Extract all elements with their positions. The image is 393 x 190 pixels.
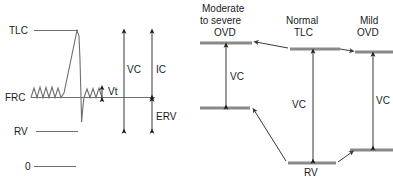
label-vc-normal: VC (292, 99, 306, 110)
label-rv: RV (14, 126, 28, 137)
label-zero: 0 (25, 161, 31, 172)
title-normal-line1: Normal (286, 15, 318, 26)
title-moderate-line2: to severe (200, 15, 242, 26)
label-rv-normal: RV (304, 167, 318, 178)
label-tlc: TLC (9, 25, 28, 36)
title-normal-line2: TLC (294, 27, 313, 38)
label-vc: VC (127, 64, 141, 75)
label-vc-moderate: VC (230, 71, 244, 82)
title-moderate-line3: OVD (214, 27, 236, 38)
label-frc: FRC (5, 92, 26, 103)
label-erv: ERV (156, 111, 177, 122)
label-ic: IC (156, 64, 166, 75)
title-mild-line2: OVD (357, 27, 379, 38)
figure-container: TLC FRC RV 0 Vt VC IC ERV Moderate to se… (0, 0, 393, 190)
title-moderate-line1: Moderate (202, 3, 245, 14)
diagram-svg: TLC FRC RV 0 Vt VC IC ERV Moderate to se… (0, 0, 393, 190)
label-vt: Vt (108, 86, 118, 97)
title-mild-line1: Mild (360, 15, 378, 26)
label-vc-mild: VC (376, 95, 390, 106)
